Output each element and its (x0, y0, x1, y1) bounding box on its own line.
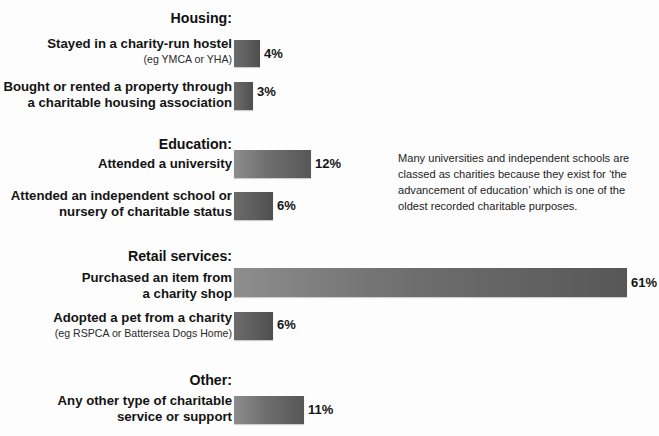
bar-label-group: Stayed in a charity-run hostel (eg YMCA … (47, 36, 232, 65)
bar-sublabel: (eg RSPCA or Battersea Dogs Home) (53, 327, 232, 340)
section-heading-education: Education: (159, 136, 232, 152)
bar-label: Attended an independent school or (11, 188, 232, 204)
bar-label-group: Bought or rented a property through a ch… (3, 79, 232, 110)
section-heading-retail-services: Retail services: (128, 248, 232, 264)
bar-label-group: Attended a university (98, 156, 232, 172)
annotation-text: Many universities and independent school… (398, 150, 638, 214)
bar-label: Bought or rented a property through (3, 79, 232, 95)
bar-value-label: 12% (315, 156, 341, 171)
bar-label-group: Adopted a pet from a charity (eg RSPCA o… (53, 310, 232, 339)
bar-label: Any other type of charitable (58, 393, 232, 409)
bar-any-other-charitable-support (234, 396, 304, 424)
horizontal-bar-chart: Housing: Stayed in a charity-run hostel … (0, 0, 659, 436)
bar-label-group: Attended an independent school or nurser… (11, 188, 232, 219)
bar-label-line2: nursery of charitable status (11, 204, 232, 220)
bar-label-line2: a charity shop (82, 286, 232, 302)
bar-adopted-a-pet-from-charity (234, 312, 273, 340)
bar-bought-or-rented-property (234, 82, 253, 110)
bar-label-line2: a charitable housing association (3, 95, 232, 111)
bar-purchased-item-from-charity-shop (234, 268, 627, 297)
bar-label: Adopted a pet from a charity (53, 310, 232, 326)
bar-value-label: 11% (308, 402, 333, 417)
bar-value-label: 3% (257, 84, 276, 99)
bar-value-label: 6% (277, 198, 296, 213)
bar-label: Stayed in a charity-run hostel (47, 36, 232, 52)
bar-sublabel: (eg YMCA or YHA) (47, 53, 232, 66)
bar-label: Purchased an item from (82, 270, 232, 286)
bar-label-group: Any other type of charitable service or … (58, 393, 232, 424)
bar-attended-a-university (234, 150, 311, 178)
section-heading-other: Other: (189, 372, 232, 388)
bar-label: Attended a university (98, 156, 232, 172)
bar-value-label: 61% (631, 275, 657, 290)
section-heading-housing: Housing: (171, 10, 232, 26)
bar-value-label: 6% (277, 317, 296, 332)
bar-value-label: 4% (264, 46, 283, 61)
bar-label-group: Purchased an item from a charity shop (82, 270, 232, 301)
bar-stayed-in-charity-run-hostel (234, 40, 260, 67)
bar-attended-independent-school (234, 192, 273, 220)
bar-label-line2: service or support (58, 409, 232, 425)
